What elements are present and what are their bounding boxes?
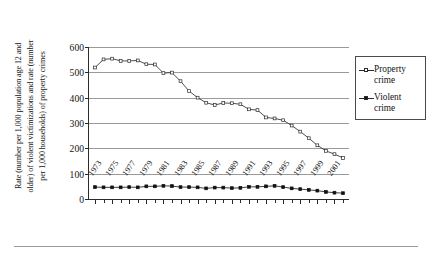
data-point — [213, 186, 216, 189]
y-tick-mark — [85, 199, 89, 200]
data-point — [307, 188, 310, 191]
x-tick-mark-1983 — [181, 199, 182, 204]
data-point — [128, 60, 131, 63]
x-tick-mark-1975 — [112, 199, 113, 204]
data-point — [136, 59, 139, 62]
data-point — [205, 187, 208, 190]
data-point — [145, 63, 148, 66]
legend-label-violent-crime: Violent crime — [374, 92, 401, 113]
data-point — [188, 186, 191, 189]
x-tick-mark-1986 — [206, 199, 207, 203]
x-tick-mark-1979 — [146, 199, 147, 204]
data-point — [282, 119, 285, 122]
x-tick-mark-1987 — [215, 199, 216, 204]
data-point — [325, 191, 328, 194]
data-point — [282, 186, 285, 189]
x-tick-mark-1994 — [275, 199, 276, 203]
data-point — [222, 102, 225, 105]
legend-marker-square-filled-icon — [359, 93, 374, 104]
x-tick-mark-1974 — [104, 199, 105, 203]
data-point — [239, 186, 242, 189]
data-point — [316, 189, 319, 192]
y-tick-label: 0 — [79, 194, 84, 205]
legend-label-property-crime-line1: Property — [374, 64, 406, 74]
data-point — [179, 80, 182, 83]
x-tick-mark-1982 — [172, 199, 173, 203]
data-point — [299, 188, 302, 191]
data-point — [119, 186, 122, 189]
property-crime-markers — [94, 57, 345, 159]
x-tick-mark-1996 — [292, 199, 293, 203]
x-tick-mark-1981 — [163, 199, 164, 204]
data-point — [205, 101, 208, 104]
data-point — [265, 185, 268, 188]
violent-crime-line — [95, 186, 343, 193]
data-point — [333, 191, 336, 194]
x-tick-mark-1977 — [129, 199, 130, 204]
x-tick-mark-1999 — [317, 199, 318, 204]
data-point — [153, 63, 156, 66]
legend-item-property-crime[interactable]: Property crime — [359, 64, 422, 85]
property-crime-line — [95, 59, 343, 158]
x-tick-mark-2002 — [343, 199, 344, 203]
data-point — [256, 109, 259, 112]
data-point — [333, 153, 336, 156]
data-point — [290, 124, 293, 127]
data-point — [196, 96, 199, 99]
legend-label-property-crime-line2: crime — [374, 75, 395, 85]
y-tick-label: 300 — [70, 118, 84, 129]
x-tick-mark-1988 — [223, 199, 224, 203]
data-point — [342, 157, 345, 160]
x-tick-mark-1995 — [283, 199, 284, 204]
x-tick-mark-2001 — [334, 199, 335, 204]
y-tick-label: 600 — [70, 42, 84, 53]
x-tick-mark-1998 — [309, 199, 310, 203]
data-point — [111, 57, 114, 60]
x-tick-mark-1997 — [300, 199, 301, 204]
data-point — [273, 184, 276, 187]
data-point — [128, 186, 131, 189]
data-point — [94, 66, 97, 69]
data-point — [171, 71, 174, 74]
data-point — [213, 104, 216, 107]
data-point — [162, 184, 165, 187]
data-point — [342, 192, 345, 195]
data-point — [290, 187, 293, 190]
data-point — [162, 72, 165, 75]
x-tick-mark-1989 — [232, 199, 233, 204]
data-point — [230, 102, 233, 105]
y-tick-label: 500 — [70, 67, 84, 78]
y-tick-label: 200 — [70, 143, 84, 154]
data-point — [136, 186, 139, 189]
x-tick-mark-1985 — [198, 199, 199, 204]
legend-label-property-crime: Property crime — [374, 64, 406, 85]
data-point — [265, 116, 268, 119]
data-point — [230, 187, 233, 190]
data-point — [119, 60, 122, 63]
legend-marker-square-open-icon — [359, 65, 374, 76]
legend-item-violent-crime[interactable]: Violent crime — [359, 92, 422, 113]
legend-label-violent-crime-line2: crime — [374, 103, 395, 113]
data-point — [248, 185, 251, 188]
data-point — [179, 186, 182, 189]
x-tick-mark-1991 — [249, 199, 250, 204]
data-point — [102, 186, 105, 189]
x-tick-mark-2000 — [326, 199, 327, 203]
chart-figure: Rate (number per 1,000 population age 12… — [0, 0, 432, 254]
data-point — [102, 58, 105, 61]
y-axis-title: Rate (number per 1,000 population age 12… — [2, 18, 50, 214]
data-point — [222, 186, 225, 189]
data-point — [325, 149, 328, 152]
data-point — [316, 144, 319, 147]
data-point — [248, 108, 251, 111]
data-point — [153, 185, 156, 188]
data-point — [171, 185, 174, 188]
data-point — [196, 186, 199, 189]
data-point — [188, 90, 191, 93]
data-point — [145, 185, 148, 188]
x-tick-mark-1984 — [189, 199, 190, 203]
data-point — [239, 103, 242, 106]
y-tick-label: 100 — [70, 168, 84, 179]
x-tick-mark-1980 — [155, 199, 156, 203]
data-point — [256, 185, 259, 188]
